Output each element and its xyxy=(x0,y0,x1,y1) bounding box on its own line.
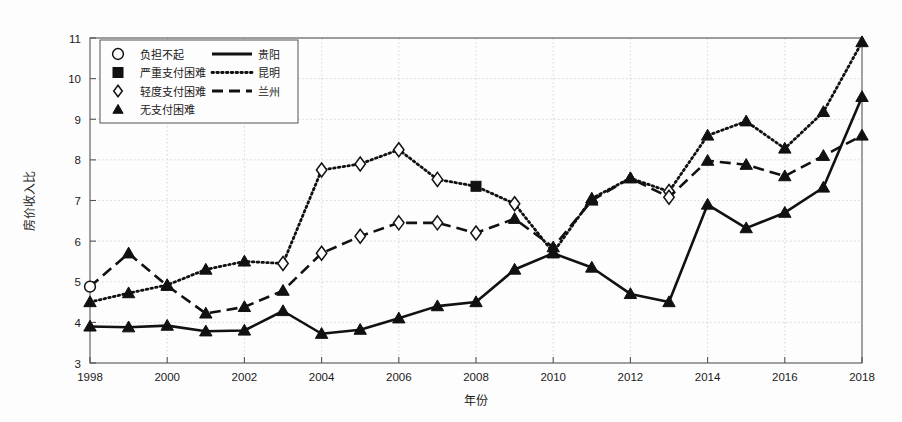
y-tick-label: 7 xyxy=(75,195,81,207)
legend-marker-label: 无支付困难 xyxy=(140,104,195,116)
y-tick-label: 8 xyxy=(75,154,81,166)
x-tick-label: 2008 xyxy=(463,371,489,383)
marker-square-filled xyxy=(113,68,123,78)
chart-figure: 3456789101119982000200220042006200820102… xyxy=(0,0,902,422)
marker-square-filled xyxy=(471,181,481,191)
x-tick-label: 2014 xyxy=(695,371,721,383)
y-tick-label: 5 xyxy=(75,276,81,288)
legend-marker-label: 负担不起 xyxy=(140,48,184,61)
x-tick-label: 2018 xyxy=(849,371,875,383)
x-tick-label: 2004 xyxy=(309,371,335,383)
y-tick-label: 11 xyxy=(69,33,81,45)
x-tick-label: 2010 xyxy=(540,371,566,383)
marker-circle-open xyxy=(113,49,124,60)
y-tick-label: 6 xyxy=(75,236,81,248)
marker-circle-open xyxy=(85,281,96,292)
x-tick-label: 2016 xyxy=(772,371,798,383)
x-tick-label: 2012 xyxy=(618,371,644,383)
y-tick-label: 10 xyxy=(68,73,81,85)
legend-line-label: 兰州 xyxy=(258,86,280,98)
chart-canvas: 3456789101119982000200220042006200820102… xyxy=(0,0,902,422)
chart-legend: 负担不起严重支付困难轻度支付困难无支付困难贵阳昆明兰州 xyxy=(100,40,298,123)
y-tick-label: 9 xyxy=(75,114,81,126)
legend-line-label: 贵阳 xyxy=(258,49,280,61)
x-tick-label: 2000 xyxy=(154,371,180,383)
legend-line-label: 昆明 xyxy=(258,67,280,79)
x-tick-label: 1998 xyxy=(77,371,103,383)
y-tick-label: 3 xyxy=(75,358,81,370)
y-tick-label: 4 xyxy=(75,317,82,329)
x-axis-label: 年份 xyxy=(464,394,488,408)
legend-marker-label: 轻度支付困难 xyxy=(140,85,206,98)
legend-marker-label: 严重支付困难 xyxy=(140,66,206,79)
y-axis-label: 房价收入比 xyxy=(22,171,37,231)
x-tick-label: 2006 xyxy=(386,371,412,383)
x-tick-label: 2002 xyxy=(232,371,258,383)
